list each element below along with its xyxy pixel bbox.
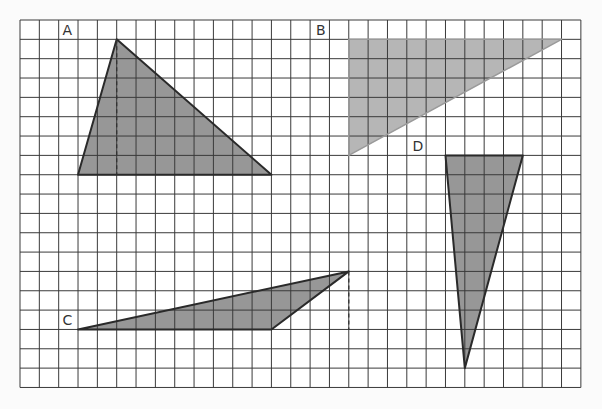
- triangle-grid-diagram: ABCD: [0, 0, 602, 409]
- triangle-a-label: A: [63, 22, 73, 38]
- triangle-c-label: C: [63, 312, 73, 328]
- triangle-b-label: B: [316, 22, 326, 38]
- triangle-d-label: D: [413, 138, 424, 154]
